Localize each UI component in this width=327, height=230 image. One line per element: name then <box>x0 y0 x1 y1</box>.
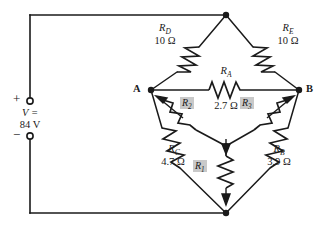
source-minus-sign: − <box>13 128 20 142</box>
arrowhead-bottom-vertex <box>222 194 230 205</box>
wire-rd-to-nodea <box>151 72 177 90</box>
wire-re-to-nodeb <box>275 72 299 90</box>
resistor-rc-value: 4.7 Ω <box>149 156 197 167</box>
source-voltage-label-line1: V = <box>8 107 52 118</box>
resistor-r2-shaded-box: R2 <box>180 97 194 109</box>
resistor-rd-value: 10 Ω <box>142 35 188 46</box>
resistor-ra-zigzag <box>209 82 243 98</box>
node-dot-bottom <box>223 210 229 216</box>
resistor-rc-name: RC <box>152 143 196 154</box>
resistor-r1-subscript: 1 <box>201 166 205 174</box>
resistor-r1-shaded-box: R1 <box>193 160 207 172</box>
node-a-label: A <box>133 83 141 94</box>
terminal-positive <box>27 98 33 104</box>
resistor-rb-value: 3.9 Ω <box>255 156 303 167</box>
circuit-diagram: + − V = 84 V A B RD 10 Ω RE 10 Ω RA 2.7 … <box>0 0 327 230</box>
resistor-r1-label: R1 <box>193 156 207 173</box>
resistor-re-zigzag <box>253 47 275 72</box>
node-dot-centre <box>223 143 229 149</box>
node-dot-a <box>148 87 154 93</box>
resistor-r2-subscript: 2 <box>188 103 192 111</box>
node-b-label: B <box>306 83 313 94</box>
wire-rb-to-bottom <box>226 168 270 213</box>
wire-top-to-rd <box>199 15 226 47</box>
node-dot-b <box>296 87 302 93</box>
resistor-ra-name: RA <box>203 65 249 76</box>
resistor-re-name: RE <box>265 22 311 33</box>
node-dot-top <box>223 12 229 18</box>
resistor-rd-zigzag <box>177 47 199 72</box>
resistor-r3-label: R3 <box>240 93 254 110</box>
arrowhead-node-a <box>156 96 167 103</box>
resistor-rb-name: RB <box>257 143 301 154</box>
source-voltage-label-line2: 84 V <box>8 119 52 130</box>
resistor-r1-zigzag <box>218 156 233 188</box>
resistor-r3-subscript: 3 <box>248 103 252 111</box>
wire-top-to-re <box>226 15 253 47</box>
resistor-r2-label: R2 <box>180 93 194 110</box>
arrowhead-node-b <box>283 96 294 103</box>
resistor-re-value: 10 Ω <box>265 35 311 46</box>
resistor-r3-shaded-box: R3 <box>240 97 254 109</box>
resistor-ra-subscript: A <box>227 70 232 79</box>
terminal-negative <box>27 133 33 139</box>
wire-rc-to-bottom <box>180 168 226 213</box>
source-plus-sign: + <box>13 92 20 106</box>
resistor-rd-name: RD <box>142 22 188 33</box>
source-voltage-equals: V = <box>22 107 38 118</box>
